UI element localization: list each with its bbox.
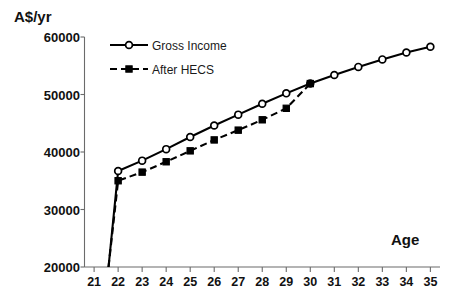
data-point-marker[interactable] [307, 80, 313, 86]
series-line-gross-income [109, 47, 431, 267]
legend-label-after-hecs: After HECS [152, 63, 214, 77]
data-point-marker[interactable] [427, 43, 434, 50]
data-point-marker[interactable] [163, 159, 169, 165]
data-point-marker[interactable] [331, 72, 338, 79]
income-vs-age-line-chart: A$/yr Age 2000030000400005000060000 2122… [0, 0, 449, 301]
data-point-marker[interactable] [163, 146, 170, 153]
data-point-marker[interactable] [283, 105, 289, 111]
data-point-marker[interactable] [403, 49, 410, 56]
data-point-marker[interactable] [187, 148, 193, 154]
data-point-marker[interactable] [187, 134, 194, 141]
data-point-marker[interactable] [115, 168, 122, 175]
data-point-marker[interactable] [235, 127, 241, 133]
data-point-marker[interactable] [139, 157, 146, 164]
data-point-marker[interactable] [115, 178, 121, 184]
data-point-marker[interactable] [283, 90, 290, 97]
data-point-marker[interactable] [211, 122, 218, 129]
legend-marker-filled-square [126, 66, 132, 72]
legend-label-gross-income: Gross Income [152, 39, 227, 53]
legend-marker-open-circle [126, 42, 133, 49]
data-point-marker[interactable] [259, 117, 265, 123]
data-point-marker[interactable] [259, 100, 266, 107]
data-point-marker[interactable] [379, 56, 386, 63]
data-point-marker[interactable] [235, 111, 242, 118]
data-point-marker[interactable] [139, 169, 145, 175]
data-point-marker[interactable] [211, 137, 217, 143]
data-point-marker[interactable] [355, 64, 362, 71]
